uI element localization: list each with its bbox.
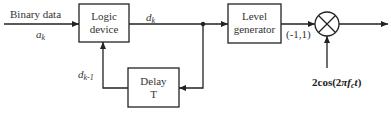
carrier-label: 2cos(2πfct): [312, 76, 361, 88]
dk-label: dk: [146, 11, 155, 23]
level-out-label: (-1,1): [286, 28, 311, 40]
logic-device-label: Logicdevice: [79, 10, 129, 36]
input-symbol: ak: [36, 28, 45, 40]
delay-return-path: [103, 42, 128, 88]
level-generator-label: Levelgenerator: [228, 10, 281, 36]
delay-label: DelayT: [128, 75, 179, 101]
dk1-label: dk-1: [78, 68, 94, 80]
junction-dot: [201, 22, 205, 26]
feedback-path: [179, 24, 203, 88]
input-label: Binary data: [10, 8, 61, 20]
